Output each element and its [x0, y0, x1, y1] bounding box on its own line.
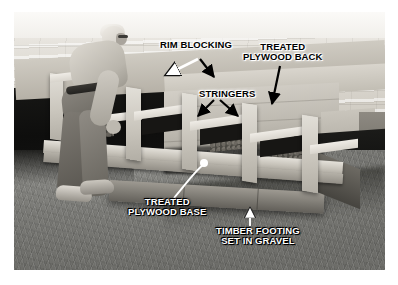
screenshot-root: RIM BLOCKING TREATED PLYWOOD BACK STRING…	[0, 0, 398, 285]
worker-shoe-front	[80, 179, 115, 195]
callout-treated-plywood-back: TREATED PLYWOOD BACK	[243, 42, 323, 62]
callout-rim-blocking: RIM BLOCKING	[160, 40, 232, 50]
worker-hand	[106, 120, 121, 134]
glasses-icon	[118, 35, 128, 38]
callout-treated-plywood-base: TREATED PLYWOOD BASE	[128, 197, 206, 217]
callout-timber-footing: TIMBER FOOTING SET IN GRAVEL	[216, 226, 300, 246]
stair-stringer	[242, 103, 257, 183]
photograph: RIM BLOCKING TREATED PLYWOOD BACK STRING…	[14, 12, 385, 270]
callout-stringers: STRINGERS	[199, 89, 255, 99]
stair-stringer	[182, 93, 197, 171]
worker	[54, 26, 140, 216]
